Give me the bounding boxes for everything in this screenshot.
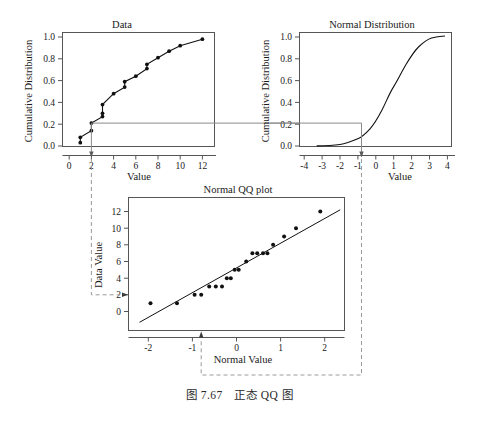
y-axis-data: 0.0 0.2 0.4 0.6 0.8 1.0 [43,32,62,151]
yaxis-title-data: Cumulative Distribution [23,39,34,142]
panel-data-ecdf: Data 0.0 0.2 0.4 0.6 0.8 1.0 [23,19,300,182]
xtick-label: 10 [175,161,185,171]
xtick-label: 8 [156,161,161,171]
xaxis-title-data: Value [127,171,151,182]
xtick-label: 1 [278,343,283,353]
xtick-label: -1 [188,343,196,353]
plot-frame-data [63,33,215,147]
xtick-label: 12 [198,161,208,171]
ytick-label: 0.8 [280,54,292,64]
x-axis-qq: -2 -1 0 1 2 [129,338,345,354]
yaxis-title-qq: Data Value [93,242,104,289]
x-axis-data: 0 2 4 6 8 10 12 [63,156,217,172]
arrowhead-up-qq-normalvalue [199,332,203,338]
xaxis-title-qq: Normal Value [214,354,273,365]
ytick-label: 0 [116,307,121,317]
xtick-label: 0 [373,161,378,171]
y-axis-normal: 0.0 0.2 0.4 0.6 0.8 1.0 [280,32,299,151]
xtick-label: 0 [234,343,239,353]
xtick-label: -1 [354,161,362,171]
figure-root: Data 0.0 0.2 0.4 0.6 0.8 1.0 [0,0,479,421]
xtick-label: 1 [391,161,396,171]
normal-cdf-curve [317,36,445,146]
qq-figure-svg: Data 0.0 0.2 0.4 0.6 0.8 1.0 [0,0,479,421]
arrowhead-down-data [89,152,93,158]
xtick-label: 0 [67,161,72,171]
ecdf-points [78,37,204,144]
figure-caption: 图 7.67 正态 QQ 图 [0,386,479,402]
xtick-label: -2 [336,161,344,171]
ytick-label: 10 [112,224,122,234]
xtick-label: -2 [144,343,152,353]
ytick-label: 0.2 [280,120,292,130]
ecdf-curve [80,39,202,143]
ytick-label: 0.4 [43,98,55,108]
xtick-label: 4 [445,161,450,171]
xtick-label: -4 [300,161,308,171]
xtick-label: 2 [322,343,327,353]
panel-normal-cdf: Normal Distribution 0.0 0.2 0.4 0.6 0.8 … [260,19,455,182]
xtick-label: 6 [133,161,138,171]
ytick-label: 1.0 [43,32,55,42]
ytick-label: 0.6 [43,76,55,86]
panel-title-data: Data [112,19,132,30]
xtick-label: 3 [427,161,432,171]
ytick-label: 4 [116,274,121,284]
arrowhead-down-normal [359,152,363,158]
ytick-label: 8 [116,240,121,250]
panel-qq-plot: Normal QQ plot 0 2 4 6 8 10 12 [93,184,345,365]
panel-title-qq: Normal QQ plot [204,184,273,195]
ytick-label: 12 [112,207,122,217]
yaxis-title-normal: Cumulative Distribution [260,39,271,142]
qq-reference-line [140,210,341,322]
ytick-label: 1.0 [280,32,292,42]
xtick-label: 4 [111,161,116,171]
ytick-label: 0.0 [43,141,55,151]
ytick-label: 0.0 [280,141,292,151]
ytick-label: 0.6 [280,76,292,86]
xaxis-title-normal: Value [388,171,412,182]
ytick-label: 0.8 [43,54,55,64]
arrowhead-right-qq-datavalue [122,293,128,297]
ytick-label: 0.4 [280,98,292,108]
xtick-label: -3 [318,161,326,171]
x-axis-normal: -4 -3 -2 -1 0 1 2 3 4 [300,156,456,172]
qq-points [149,210,323,306]
panel-title-normal: Normal Distribution [329,19,415,30]
ytick-label: 6 [116,257,121,267]
xtick-label: 2 [409,161,414,171]
y-axis-qq: 0 2 4 6 8 10 12 [112,207,129,317]
plot-frame-normal [300,33,452,147]
ytick-label: 0.2 [43,120,55,130]
